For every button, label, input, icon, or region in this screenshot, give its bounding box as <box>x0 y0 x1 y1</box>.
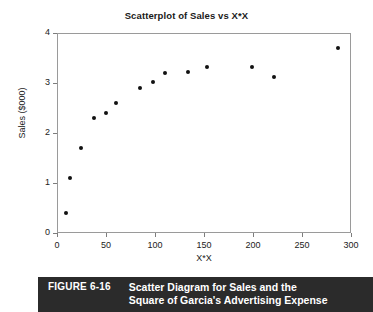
figure-container: Scatterplot of Sales vs X*X 050100150200… <box>0 0 373 312</box>
y-axis-tick <box>53 33 57 34</box>
y-axis-tick-label: 2 <box>28 127 50 137</box>
y-axis-tick <box>53 83 57 84</box>
y-axis-tick-label: 0 <box>28 227 50 237</box>
x-axis-tick-label: 200 <box>233 240 273 250</box>
x-axis-tick-label: 150 <box>184 240 224 250</box>
x-axis-tick-label: 50 <box>86 240 126 250</box>
plot-frame <box>57 33 351 233</box>
y-axis-tick-label: 4 <box>28 27 50 37</box>
x-axis-tick <box>57 233 58 237</box>
y-axis-tick-label: 3 <box>28 77 50 87</box>
figure-caption-inner: FIGURE 6-16 Scatter Diagram for Sales an… <box>38 277 373 312</box>
x-axis-tick <box>351 233 352 237</box>
x-axis-tick-label: 300 <box>331 240 371 250</box>
x-axis-tick <box>302 233 303 237</box>
x-axis-tick <box>204 233 205 237</box>
y-axis-tick <box>53 133 57 134</box>
x-axis-tick <box>155 233 156 237</box>
caption-line-1: Scatter Diagram for Sales and the <box>129 281 373 294</box>
x-axis-label: X*X <box>57 253 351 263</box>
x-axis-tick <box>106 233 107 237</box>
figure-number-label: FIGURE 6-16 <box>38 281 111 292</box>
chart-title: Scatterplot of Sales vs X*X <box>0 10 373 21</box>
caption-line-2: Square of Garcia's Advertising Expense <box>129 294 373 307</box>
y-axis-tick <box>53 183 57 184</box>
x-axis-tick-label: 100 <box>135 240 175 250</box>
y-axis-tick-label: 1 <box>28 177 50 187</box>
y-axis-label: Sales ($000) <box>17 63 27 163</box>
y-axis-tick <box>53 233 57 234</box>
x-axis-tick-label: 250 <box>282 240 322 250</box>
figure-caption-bar: FIGURE 6-16 Scatter Diagram for Sales an… <box>38 277 373 312</box>
x-axis-tick <box>253 233 254 237</box>
x-axis-tick-label: 0 <box>37 240 77 250</box>
page-edge-strip <box>0 265 373 277</box>
figure-caption-text: Scatter Diagram for Sales and the Square… <box>111 281 373 307</box>
